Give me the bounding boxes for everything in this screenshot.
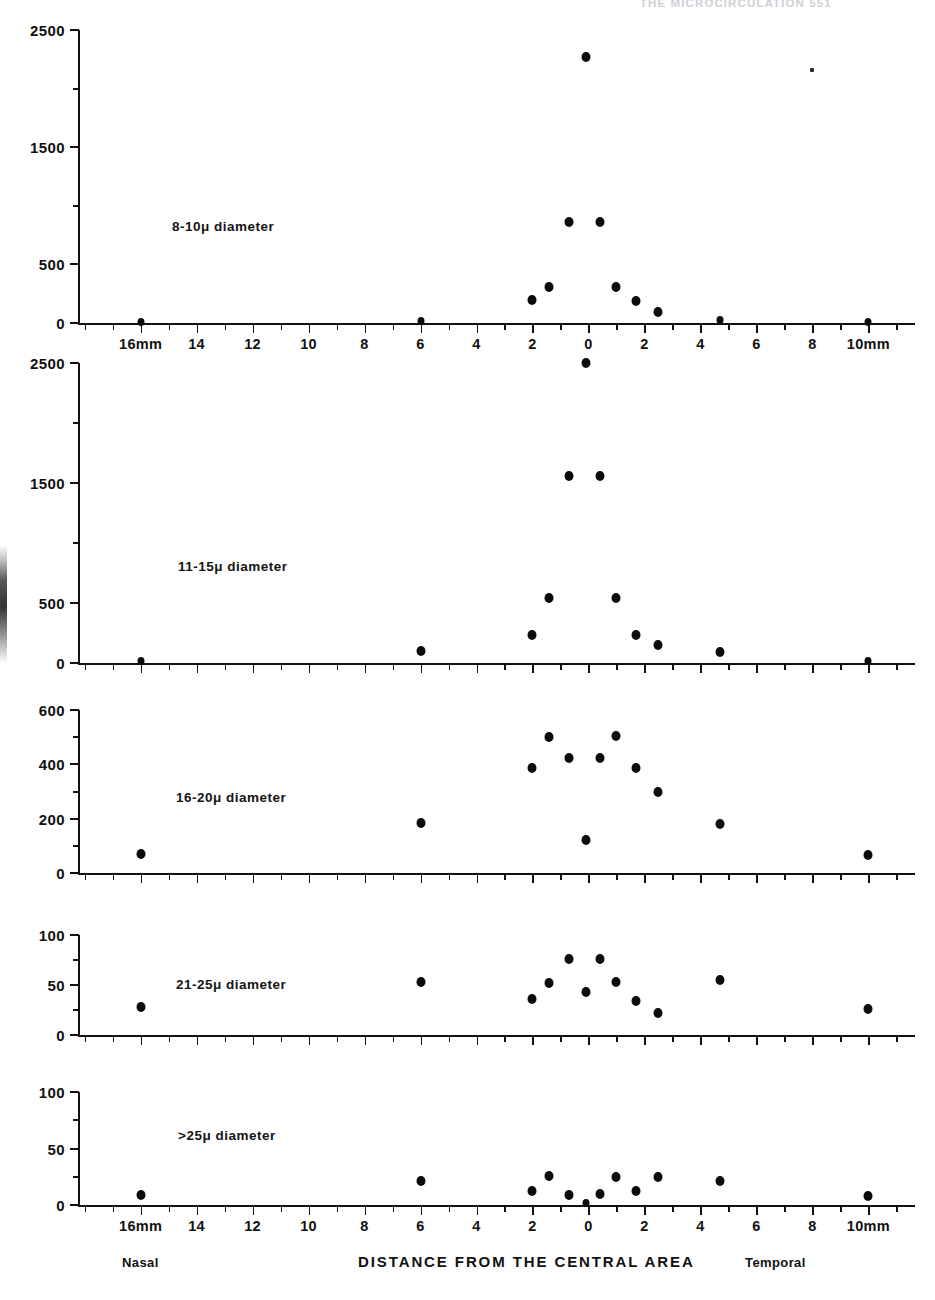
x-tick-minor	[449, 1206, 451, 1212]
y-tick-label: 100	[0, 1084, 65, 1101]
y-tick-label: 0	[0, 1197, 65, 1214]
x-tick-major	[644, 1206, 646, 1215]
x-tick-label: 4	[696, 1218, 704, 1234]
figure-root: THE MICROCIRCULATION 551 05001500250016m…	[0, 0, 935, 1300]
x-tick-minor	[225, 1206, 227, 1212]
x-tick-major	[588, 1206, 590, 1215]
data-point	[416, 1176, 425, 1186]
y-tick-major	[70, 1148, 79, 1150]
x-tick-minor	[616, 1206, 618, 1212]
x-tick-minor	[113, 1206, 115, 1212]
data-point	[864, 1191, 873, 1201]
x-tick-label: 0	[584, 1218, 592, 1234]
x-tick-minor	[560, 1206, 562, 1212]
x-axis-line	[78, 1205, 915, 1207]
x-axis-title: DISTANCE FROM THE CENTRAL AREA	[358, 1253, 695, 1270]
x-tick-label: 14	[188, 1218, 205, 1234]
x-tick-label: 8	[360, 1218, 368, 1234]
x-tick-major	[756, 1206, 758, 1215]
y-tick-label: 50	[0, 1140, 65, 1157]
x-tick-minor	[672, 1206, 674, 1212]
x-tick-major	[365, 1206, 367, 1215]
x-tick-label: 16mm	[119, 1218, 162, 1234]
x-tick-major	[309, 1206, 311, 1215]
x-tick-minor	[840, 1206, 842, 1212]
data-point	[582, 1199, 589, 1207]
x-tick-major	[253, 1206, 255, 1215]
data-point	[595, 1189, 604, 1199]
data-point	[528, 1186, 537, 1196]
y-tick-major	[70, 1091, 79, 1093]
x-tick-label: 8	[808, 1218, 816, 1234]
x-tick-minor	[85, 1206, 87, 1212]
x-tick-label: 2	[528, 1218, 536, 1234]
y-tick-minor	[73, 1119, 79, 1121]
x-tick-major	[812, 1206, 814, 1215]
data-point	[564, 1190, 573, 1200]
x-tick-major	[477, 1206, 479, 1215]
x-tick-label: 2	[640, 1218, 648, 1234]
y-tick-minor	[73, 1176, 79, 1178]
x-tick-label: 6	[752, 1218, 760, 1234]
panel-title: >25μ diameter	[178, 1128, 276, 1143]
x-tick-label: 10mm	[847, 1218, 890, 1234]
x-tick-major	[197, 1206, 199, 1215]
panel-5: 05010016mm14121086420246810mm>25μ diamet…	[0, 0, 935, 1300]
x-tick-minor	[504, 1206, 506, 1212]
x-tick-major	[532, 1206, 534, 1215]
x-tick-minor	[281, 1206, 283, 1212]
x-tick-label: 10	[300, 1218, 317, 1234]
data-point	[716, 1176, 725, 1186]
data-point	[654, 1172, 663, 1182]
x-tick-major	[421, 1206, 423, 1215]
x-tick-minor	[784, 1206, 786, 1212]
x-tick-label: 12	[244, 1218, 261, 1234]
x-tick-major	[700, 1206, 702, 1215]
x-tick-label: 6	[416, 1218, 424, 1234]
x-tick-label: 4	[472, 1218, 480, 1234]
x-tick-major	[141, 1206, 143, 1215]
x-tick-minor	[896, 1206, 898, 1212]
x-tick-minor	[337, 1206, 339, 1212]
y-tick-major	[70, 1204, 79, 1206]
data-point	[136, 1190, 145, 1200]
data-point	[545, 1171, 554, 1181]
data-point	[632, 1186, 641, 1196]
x-tick-minor	[169, 1206, 171, 1212]
x-tick-minor	[393, 1206, 395, 1212]
x-tick-major	[868, 1206, 870, 1215]
x-tick-minor	[728, 1206, 730, 1212]
nasal-label: Nasal	[122, 1255, 159, 1270]
temporal-label: Temporal	[745, 1255, 806, 1270]
data-point	[612, 1172, 621, 1182]
